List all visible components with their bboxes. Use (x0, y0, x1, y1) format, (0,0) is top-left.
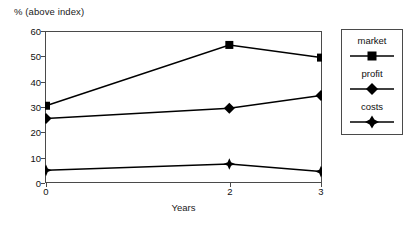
data-point-costs (224, 158, 236, 170)
legend-swatch-star-diamond-icon (348, 115, 396, 129)
y-tick-label: 20 (15, 127, 41, 138)
y-tick-mark (41, 183, 45, 184)
legend-label: market (342, 34, 402, 47)
series-line-market (46, 45, 321, 106)
data-point-market (225, 41, 233, 49)
y-tick-label: 60 (15, 26, 41, 37)
y-tick-label: 30 (15, 102, 41, 113)
legend-entry-market[interactable]: market (342, 34, 402, 67)
data-point-profit (224, 103, 235, 114)
chart-legend: market profit costs (341, 29, 403, 135)
y-tick-label: 0 (15, 178, 41, 189)
x-axis-tick-labels: 0 2 3 (45, 186, 322, 200)
plot-series-canvas (45, 31, 322, 183)
legend-swatch-diamond-icon (348, 82, 396, 96)
x-axis-label: Years (45, 202, 322, 213)
x-tick-label: 0 (43, 186, 48, 197)
legend-label: costs (342, 100, 402, 113)
y-tick-label: 10 (15, 152, 41, 163)
legend-entry-costs[interactable]: costs (342, 100, 402, 133)
legend-swatch-square-icon (348, 49, 396, 63)
y-tick-label: 40 (15, 76, 41, 87)
series-line-profit (46, 96, 321, 119)
y-axis-tick-labels: 60 50 40 30 20 10 0 (10, 31, 41, 183)
x-tick-label: 2 (227, 186, 232, 197)
y-tick-label: 50 (15, 51, 41, 62)
legend-entry-profit[interactable]: profit (342, 67, 402, 100)
data-point-market (317, 54, 322, 62)
series-line-costs (46, 164, 321, 172)
x-tick-label: 3 (318, 186, 323, 197)
data-point-market (45, 102, 50, 110)
chart-figure: % (above index) 60 50 40 30 20 10 0 0 2 … (0, 0, 410, 227)
data-point-costs (315, 166, 322, 178)
data-point-profit (316, 90, 323, 101)
data-point-profit (45, 113, 52, 124)
y-axis-label: % (above index) (14, 6, 84, 17)
legend-label: profit (342, 67, 402, 80)
data-point-costs (45, 165, 52, 177)
